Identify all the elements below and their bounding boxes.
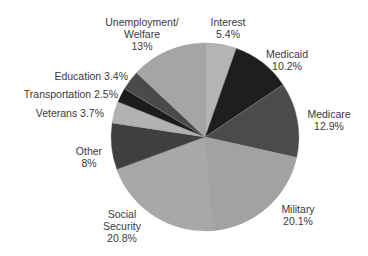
- label-other: Other 8%: [72, 145, 106, 169]
- label-veterans: Veterans 3.7%: [20, 107, 104, 119]
- label-transportation: Transportation 2.5%: [10, 88, 118, 100]
- label-interest: Interest 5.4%: [206, 16, 250, 40]
- label-medicare: Medicare 12.9%: [304, 108, 354, 132]
- label-social-security: Social Security 20.8%: [100, 208, 144, 244]
- label-unemployment-welfare: Unemployment/ Welfare 13%: [100, 16, 184, 52]
- label-medicaid: Medicaid 10.2%: [262, 48, 312, 72]
- label-military: Military 20.1%: [276, 203, 320, 227]
- label-education: Education 3.4%: [30, 70, 128, 82]
